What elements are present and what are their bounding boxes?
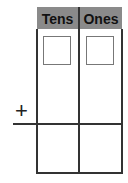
left-border	[36, 29, 38, 174]
tens-carry-box[interactable]	[43, 36, 71, 65]
plus-sign: +	[15, 100, 28, 122]
right-border	[121, 29, 123, 174]
sum-line	[13, 123, 123, 125]
column-divider	[78, 7, 80, 174]
header-ones: Ones	[80, 7, 122, 29]
bottom-border	[36, 172, 123, 174]
header-tens: Tens	[37, 7, 78, 29]
ones-carry-box[interactable]	[86, 36, 114, 65]
